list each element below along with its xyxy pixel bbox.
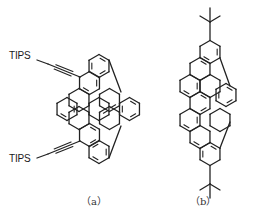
bond [99, 115, 109, 121]
bond [120, 115, 130, 121]
bond [130, 98, 140, 104]
bond [89, 98, 99, 104]
bond [57, 115, 67, 121]
bond [210, 75, 220, 81]
bond [69, 89, 79, 95]
bond [180, 92, 190, 98]
bond [216, 101, 226, 107]
bond [90, 124, 100, 130]
bond [99, 55, 109, 61]
bond [200, 92, 210, 98]
bond [200, 184, 210, 190]
bond [90, 72, 100, 78]
structure-a-pah-with-tips-ethynyl [37, 55, 139, 164]
bond [110, 89, 120, 95]
bond [83, 88, 88, 91]
bond [194, 142, 199, 145]
tips-label-top: TIPS [9, 50, 30, 61]
bond [200, 58, 210, 64]
bond [200, 16, 210, 22]
bond [211, 146, 216, 149]
bond [100, 58, 105, 61]
bond [89, 115, 99, 121]
bond [131, 114, 136, 117]
bond [210, 184, 220, 190]
bond [99, 141, 109, 147]
bond [130, 115, 140, 121]
bond [210, 126, 220, 132]
bond [93, 157, 98, 160]
bond [61, 114, 66, 117]
chemical-structures-figure [0, 0, 258, 219]
bond [79, 124, 89, 130]
bond [37, 60, 48, 64]
bond [227, 87, 232, 90]
bond [190, 75, 200, 81]
bond [48, 64, 80, 77]
bond [210, 160, 220, 166]
bond [37, 154, 48, 158]
bond [200, 126, 210, 132]
bond [201, 61, 206, 64]
bond [210, 109, 220, 115]
bond [204, 57, 209, 60]
bond [180, 75, 190, 81]
bond [131, 101, 136, 104]
caption-b: （b） [190, 193, 216, 208]
bond [220, 122, 230, 148]
tips-label-bottom: TIPS [9, 153, 30, 164]
bond [210, 58, 220, 64]
bond [200, 143, 210, 149]
bond [220, 58, 230, 86]
bond [226, 101, 236, 107]
bond [69, 124, 79, 130]
bond [216, 84, 226, 90]
bond [48, 141, 80, 154]
bond [180, 126, 190, 132]
bond [90, 89, 100, 95]
bond [201, 95, 206, 98]
bond [91, 127, 96, 130]
bond [190, 92, 200, 98]
bond [80, 72, 90, 78]
bond [200, 75, 210, 81]
bond [89, 158, 99, 164]
bond [89, 55, 99, 61]
bond [226, 84, 236, 90]
bond [100, 71, 105, 74]
structure-b-pah-with-tert-butyl [180, 8, 236, 198]
bond [80, 141, 90, 147]
bond [200, 41, 210, 47]
bond [220, 109, 230, 115]
caption-a: （a） [81, 193, 107, 208]
bond [190, 126, 200, 132]
bond [180, 109, 190, 115]
bond [210, 143, 220, 149]
bond [99, 98, 109, 104]
bond [210, 16, 220, 22]
bond [103, 110, 108, 113]
bond [190, 58, 200, 64]
bond [109, 126, 121, 158]
bond [201, 108, 206, 111]
bond [190, 109, 200, 115]
bond [79, 89, 89, 95]
bond [109, 60, 121, 92]
bond [100, 89, 110, 95]
bond [227, 100, 232, 103]
bond [89, 141, 99, 147]
bond [200, 160, 210, 166]
bond [57, 98, 67, 104]
bond [110, 124, 120, 130]
bond [210, 41, 220, 47]
bond [99, 158, 109, 164]
bond [200, 109, 210, 115]
bond [120, 98, 130, 104]
bond [184, 125, 189, 128]
bond [99, 72, 109, 78]
bond [100, 124, 110, 130]
bond [190, 143, 200, 149]
bond [184, 91, 189, 94]
